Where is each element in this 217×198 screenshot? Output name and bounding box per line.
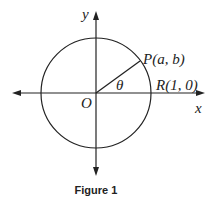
unit-circle-diagram: y x O P(a, b) R(1, 0) θ Figure 1 [0,0,217,198]
x-axis-label: x [194,100,202,116]
angle-theta-label: θ [116,77,124,93]
point-r-label: R(1, 0) [155,77,198,94]
origin-label: O [81,95,92,111]
point-p-label: P(a, b) [142,51,185,68]
y-axis-label: y [80,6,89,22]
x-axis-left-arrow-icon [12,90,21,96]
y-axis-top-arrow-icon [93,11,99,20]
y-axis-bottom-arrow-icon [93,167,99,176]
figure-caption: Figure 1 [75,184,118,196]
